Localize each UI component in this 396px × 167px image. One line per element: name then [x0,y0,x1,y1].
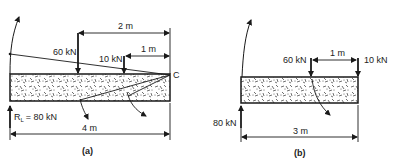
caption-a: (a) [82,146,93,156]
dimension-label-1m: 1 m [141,44,156,54]
diagram-a: RL= 80 kN 60 kN 10 kN C 2 m 1 m 4 m (a) [9,17,180,156]
dimension-label-2m: 2 m [118,21,133,31]
curved-arrow-icon [80,99,88,119]
dimension-label-1m: 1 m [330,48,345,58]
load-label-10kn: 10 kN [364,55,388,65]
dimension-label-4m: 4 m [82,123,97,133]
beam-diagram-canvas: RL= 80 kN 60 kN 10 kN C 2 m 1 m 4 m (a) [0,0,396,167]
diagram-b: 80 kN 60 kN 10 kN 1 m 3 m (b) [213,20,388,158]
point-c-label: C [173,70,180,80]
load-label-60kn: 60 kN [283,55,307,65]
influence-line [10,54,170,75]
curved-arrow-icon [242,20,251,77]
dimension-label-3m: 3 m [293,126,308,136]
reaction-label-b: 80 kN [213,118,237,128]
load-label-10kn: 10 kN [99,54,123,64]
reaction-label: RL= 80 kN [14,112,57,123]
beam-b [241,77,358,103]
caption-b: (b) [294,148,306,158]
curved-arrow-icon [10,17,19,74]
load-label-60kn: 60 kN [53,47,77,57]
